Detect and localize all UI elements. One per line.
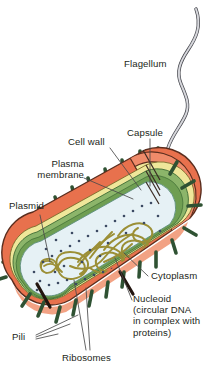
label-ribosomes: Ribosomes	[62, 352, 111, 363]
label-flagellum: Flagellum	[124, 58, 167, 69]
leader-pili-3	[36, 334, 58, 339]
bacterial-cell-diagram: Flagellum Capsule Cell wall Plasma membr…	[0, 0, 219, 378]
label-cytoplasm: Cytoplasm	[151, 270, 197, 281]
label-plasma-membrane: Plasma membrane	[24, 158, 84, 180]
label-plasmid: Plasmid	[9, 200, 44, 211]
label-cell-wall: Cell wall	[68, 136, 105, 147]
label-capsule: Capsule	[127, 127, 163, 138]
label-pili: Pili	[12, 331, 25, 342]
label-nucleoid: Nucleoid (circular DNA in complex with p…	[133, 293, 219, 338]
